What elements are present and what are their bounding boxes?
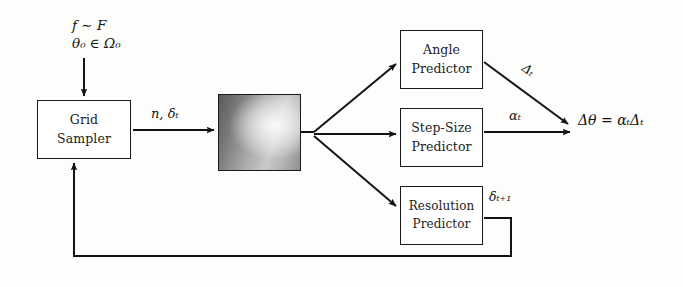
node-angle-predictor-line2: Predictor [411, 60, 471, 78]
output-equation: Δθ = αₜΔₜ [578, 111, 644, 130]
node-resolution-predictor[interactable]: Resolution Predictor [400, 186, 483, 245]
input-function-sample-label: f ∼ F [72, 16, 121, 34]
node-grid-sampler-line2: Sampler [57, 130, 111, 148]
node-grid-sampler[interactable]: Grid Sampler [37, 100, 131, 159]
input-annotation: f ∼ F θ₀ ∈ Ω₀ [72, 16, 121, 52]
node-angle-predictor[interactable]: Angle Predictor [400, 30, 483, 89]
edge-label-sampler-to-patch: n, δₜ [151, 105, 179, 123]
arrow-junction-to-angle-predictor [314, 64, 396, 132]
node-step-size-predictor[interactable]: Step-Size Predictor [400, 108, 483, 167]
feature-patch-image [218, 94, 301, 171]
diagram-canvas: f ∼ F θ₀ ∈ Ω₀ Grid Sampler n, δₜ Angle P… [0, 0, 683, 287]
input-initial-parameter-label: θ₀ ∈ Ω₀ [72, 34, 121, 52]
node-resolution-predictor-line2: Predictor [413, 216, 471, 233]
node-step-size-predictor-line1: Step-Size [411, 119, 472, 137]
node-step-size-predictor-line2: Predictor [411, 138, 471, 156]
node-grid-sampler-line1: Grid [70, 111, 98, 129]
node-resolution-predictor-line1: Resolution [409, 198, 475, 215]
edge-label-step-size-output: αₜ [509, 107, 521, 125]
edge-label-resolution-output: δₜ₊₁ [489, 189, 511, 206]
arrow-junction-to-resolution-predictor [314, 136, 396, 206]
node-angle-predictor-line1: Angle [423, 41, 460, 59]
